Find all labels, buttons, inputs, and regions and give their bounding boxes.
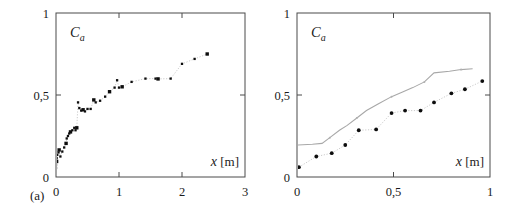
- data-point: [181, 63, 183, 65]
- chart-panel-a: 012300,51Cax [m] (a): [0, 0, 256, 215]
- x-tick-label: 0: [53, 185, 59, 199]
- data-point: [450, 91, 454, 95]
- panel-label-a: (a): [30, 188, 44, 204]
- y-tick-label: 0,5: [33, 89, 49, 103]
- data-point: [170, 77, 172, 79]
- data-point: [374, 128, 378, 132]
- data-point: [73, 127, 75, 129]
- data-point: [116, 79, 118, 81]
- data-point: [154, 77, 156, 79]
- data-point: [63, 146, 65, 148]
- data-point: [314, 155, 318, 159]
- data-point: [95, 101, 97, 103]
- y-tick-label: 0: [43, 171, 49, 185]
- data-point: [108, 90, 111, 93]
- data-point: [90, 108, 92, 110]
- data-point: [61, 150, 63, 152]
- data-point: [59, 155, 61, 157]
- data-point: [99, 100, 101, 102]
- data-point: [86, 108, 88, 110]
- axes-frame: [297, 13, 490, 177]
- chart-panel-b: 00,5100,51Cax [m] (b): [255, 0, 511, 215]
- data-point: [118, 86, 120, 88]
- data-point: [77, 101, 79, 103]
- data-point: [78, 107, 80, 109]
- data-point: [206, 52, 209, 55]
- data-point: [403, 109, 407, 113]
- data-point: [57, 148, 60, 151]
- data-point: [419, 109, 423, 113]
- data-point: [432, 100, 436, 104]
- x-tick-label: 1: [116, 185, 122, 199]
- x-tick-label: 1: [487, 185, 493, 199]
- model-point: [356, 117, 358, 119]
- data-point: [480, 79, 484, 83]
- data-point: [144, 77, 146, 79]
- data-point: [130, 81, 132, 83]
- data-point: [343, 143, 347, 147]
- data-point: [55, 160, 58, 163]
- model-point: [329, 137, 331, 139]
- data-point: [104, 95, 106, 97]
- plot-area-a: 012300,51Cax [m]: [0, 0, 256, 215]
- data-point: [297, 165, 301, 169]
- data-point: [156, 77, 159, 80]
- plot-area-b: 00,5100,51Cax [m]: [255, 0, 511, 215]
- x-tick-label: 0: [294, 185, 300, 199]
- x-axis-title: x [m]: [210, 154, 239, 169]
- y-tick-label: 0: [284, 171, 290, 185]
- data-point: [463, 87, 467, 91]
- data-point: [64, 142, 67, 145]
- y-tick-label: 0,5: [274, 89, 290, 103]
- y-tick-label: 1: [284, 7, 290, 21]
- x-tick-label: 0,5: [386, 185, 402, 199]
- data-point: [390, 111, 394, 115]
- data-point: [120, 85, 123, 88]
- model-point: [460, 69, 462, 71]
- figure-container: 012300,51Cax [m] (a) 00,5100,51Cax [m] (…: [0, 0, 511, 215]
- data-point: [92, 98, 95, 101]
- x-axis-title: x [m]: [455, 154, 484, 169]
- model-point: [423, 81, 425, 83]
- model-curve: [297, 69, 473, 145]
- data-point: [84, 110, 86, 112]
- data-point: [67, 135, 69, 137]
- data-point: [71, 129, 73, 131]
- data-point: [113, 86, 115, 88]
- x-tick-label: 2: [179, 185, 185, 199]
- data-layer: [55, 52, 209, 169]
- data-point: [357, 128, 361, 132]
- x-tick-label: 3: [242, 185, 248, 199]
- data-point: [75, 126, 78, 129]
- data-point: [330, 151, 334, 155]
- model-point: [391, 96, 393, 98]
- y-axis-title: Ca: [311, 24, 326, 43]
- y-axis-title: Ca: [70, 24, 85, 43]
- series-connector: [56, 54, 207, 168]
- y-tick-label: 1: [43, 7, 49, 21]
- data-point: [193, 58, 195, 60]
- data-point: [66, 137, 68, 139]
